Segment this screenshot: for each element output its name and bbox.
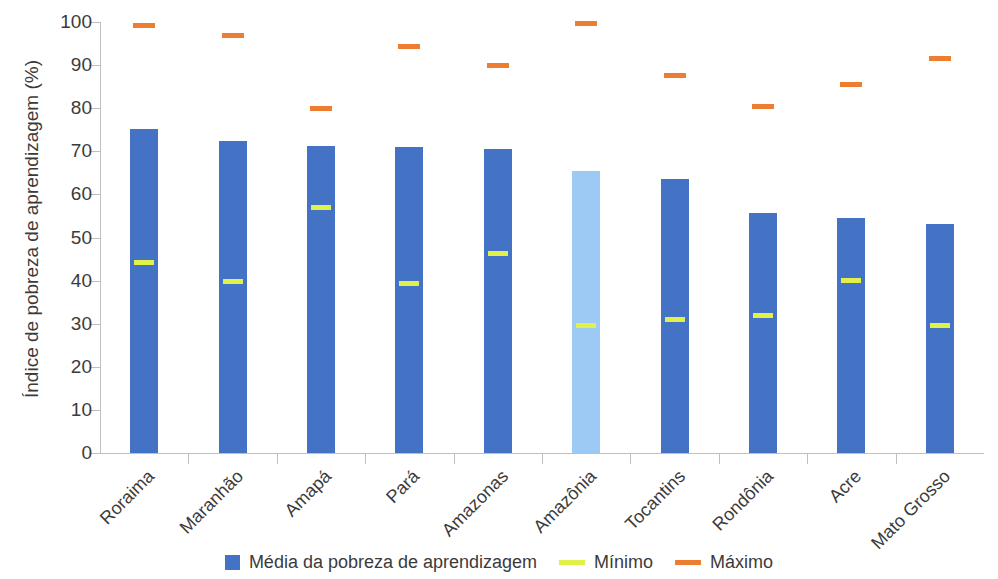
min-marker-amapá[interactable] (311, 205, 331, 210)
min-marker-amazonas[interactable] (488, 251, 508, 256)
x-tick-mark (719, 453, 720, 464)
y-tick-label: 10 (71, 397, 92, 423)
x-tick-mark (896, 453, 897, 464)
bar-maranhão[interactable] (219, 141, 247, 453)
y-tick-label: 50 (71, 225, 92, 251)
bar-amazônia[interactable] (572, 171, 600, 453)
learning-poverty-bar-chart: Índice de pobreza de aprendizagem (%) 01… (0, 0, 998, 579)
legend-swatch-line-icon (559, 560, 585, 565)
max-marker-rondônia[interactable] (752, 104, 774, 109)
max-marker-amapá[interactable] (310, 106, 332, 111)
x-tick-mark (365, 453, 366, 464)
plot-area: 0102030405060708090100 (100, 22, 984, 453)
min-marker-acre[interactable] (841, 278, 861, 283)
min-marker-tocantins[interactable] (665, 317, 685, 322)
x-tick-mark (807, 453, 808, 464)
bar-mato-grosso[interactable] (926, 224, 954, 453)
legend-label: Mínimo (594, 552, 653, 573)
legend-swatch-box-icon (225, 555, 240, 570)
y-tick-label: 70 (71, 138, 92, 164)
x-axis-labels: RoraimaMaranhãoAmapáParáAmazonasAmazônia… (100, 466, 984, 546)
y-tick-label: 60 (71, 181, 92, 207)
max-marker-tocantins[interactable] (664, 73, 686, 78)
max-marker-acre[interactable] (840, 82, 862, 87)
legend-item-2[interactable]: Mínimo (559, 552, 653, 573)
legend-swatch-line-icon (675, 560, 701, 565)
bar-roraima[interactable] (130, 129, 158, 453)
y-tick-label: 80 (71, 95, 92, 121)
bar-amazonas[interactable] (484, 149, 512, 453)
y-axis-title: Índice de pobreza de aprendizagem (%) (21, 9, 43, 449)
max-marker-amazônia[interactable] (575, 21, 597, 26)
max-marker-mato-grosso[interactable] (929, 56, 951, 61)
max-marker-roraima[interactable] (133, 23, 155, 28)
y-tick-label: 30 (71, 311, 92, 337)
min-marker-mato-grosso[interactable] (930, 323, 950, 328)
y-tick-label: 100 (60, 9, 92, 35)
chart-legend: Média da pobreza de aprendizagemMínimoMá… (0, 552, 998, 573)
x-tick-mark (277, 453, 278, 464)
legend-item-3[interactable]: Máximo (675, 552, 773, 573)
bar-amapá[interactable] (307, 146, 335, 453)
y-tick-label: 90 (71, 52, 92, 78)
y-tick-label: 0 (81, 440, 92, 466)
min-marker-rondônia[interactable] (753, 313, 773, 318)
bar-pará[interactable] (395, 147, 423, 453)
bar-tocantins[interactable] (661, 179, 689, 453)
bar-acre[interactable] (837, 218, 865, 453)
max-marker-amazonas[interactable] (487, 63, 509, 68)
legend-label: Média da pobreza de aprendizagem (249, 552, 537, 573)
max-marker-pará[interactable] (398, 44, 420, 49)
x-tick-mark (188, 453, 189, 464)
min-marker-roraima[interactable] (134, 260, 154, 265)
legend-item-1[interactable]: Média da pobreza de aprendizagem (225, 552, 537, 573)
x-tick-mark (454, 453, 455, 464)
min-marker-amazônia[interactable] (576, 323, 596, 328)
x-tick-mark (542, 453, 543, 464)
max-marker-maranhão[interactable] (222, 33, 244, 38)
y-tick-label: 20 (71, 354, 92, 380)
bar-rondônia[interactable] (749, 213, 777, 453)
min-marker-maranhão[interactable] (223, 279, 243, 284)
min-marker-pará[interactable] (399, 281, 419, 286)
legend-label: Máximo (710, 552, 773, 573)
y-axis-line (100, 22, 101, 454)
x-tick-mark (630, 453, 631, 464)
y-tick-label: 40 (71, 268, 92, 294)
